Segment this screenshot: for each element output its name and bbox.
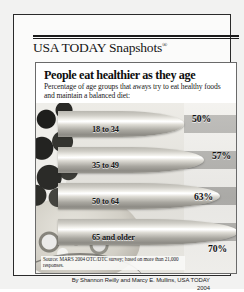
brand-name: USA TODAY Snapshots xyxy=(33,40,162,55)
value-label-50-to-64: 63% xyxy=(194,191,213,202)
byline: By Shannon Reilly and Marcy E. Mullins, … xyxy=(30,277,210,292)
bar-label-65-and-older: 65 and older xyxy=(92,233,135,242)
value-label-18-to-34: 50% xyxy=(192,113,211,124)
registered-mark: ® xyxy=(162,41,167,49)
rule-thick xyxy=(33,35,239,37)
rule-thin xyxy=(33,38,239,39)
bar-18-to-34 xyxy=(58,111,184,137)
source-note: Source: MARS 2004 OTC/DTC survey; based … xyxy=(41,256,185,270)
value-label-65-and-older: 70% xyxy=(208,243,227,254)
chart-subtitle: Percentage of age groups that aways try … xyxy=(44,83,230,100)
page-title: People eat healthier as they age xyxy=(44,68,234,83)
header-rules xyxy=(33,35,239,39)
chart-panel: People eat healthier as they age Percent… xyxy=(35,62,237,274)
bar-35-to-49 xyxy=(58,147,204,173)
bar-label-18-to-34: 18 to 34 xyxy=(92,125,119,134)
brand-title: USA TODAY Snapshots® xyxy=(33,40,239,56)
byline-year: 2004 xyxy=(197,285,210,291)
value-label-35-to-49: 57% xyxy=(212,150,231,161)
bar-label-35-to-49: 35 to 49 xyxy=(92,161,119,170)
outer-frame: USA TODAY Snapshots® People eat healthie… xyxy=(13,14,231,276)
bar-label-50-to-64: 50 to 64 xyxy=(92,197,119,206)
byline-authors: By Shannon Reilly and Marcy E. Mullins, … xyxy=(72,277,210,283)
bar-65-and-older xyxy=(58,219,236,245)
chart-stage: 18 to 34 35 to 49 50 to 64 65 and older … xyxy=(36,103,236,274)
